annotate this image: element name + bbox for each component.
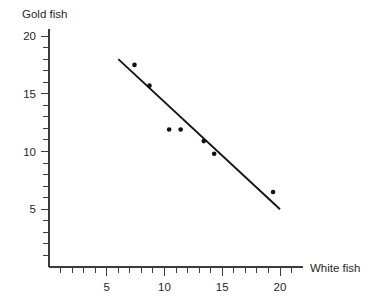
x-axis-tick-label: 10	[158, 281, 171, 293]
tick-labels-group: 51015205101520	[23, 30, 286, 293]
x-axis-tick-label: 20	[274, 281, 287, 293]
data-point	[167, 127, 172, 132]
tick-marks-group	[41, 36, 292, 276]
trend-line-group	[118, 59, 280, 209]
data-point	[212, 152, 217, 157]
data-point	[271, 190, 276, 195]
x-axis-tick-label: 5	[104, 281, 110, 293]
y-axis-tick-label: 10	[23, 146, 36, 158]
x-axis-tick-label: 15	[216, 281, 229, 293]
y-axis-title: Gold fish	[22, 8, 67, 20]
data-points-group	[132, 63, 275, 195]
trend-line	[118, 59, 280, 209]
axes-group	[49, 29, 303, 267]
data-point	[132, 63, 137, 68]
x-axis-title: White fish	[310, 262, 361, 274]
data-point	[201, 139, 206, 144]
y-axis-tick-label: 15	[23, 88, 36, 100]
data-point	[178, 127, 183, 132]
y-axis-tick-label: 20	[23, 30, 36, 42]
scatter-plot-figure: 51015205101520 Gold fish White fish	[0, 0, 385, 305]
data-point	[147, 83, 152, 88]
y-axis-tick-label: 5	[30, 203, 36, 215]
plot-canvas: 51015205101520 Gold fish White fish	[0, 0, 385, 305]
